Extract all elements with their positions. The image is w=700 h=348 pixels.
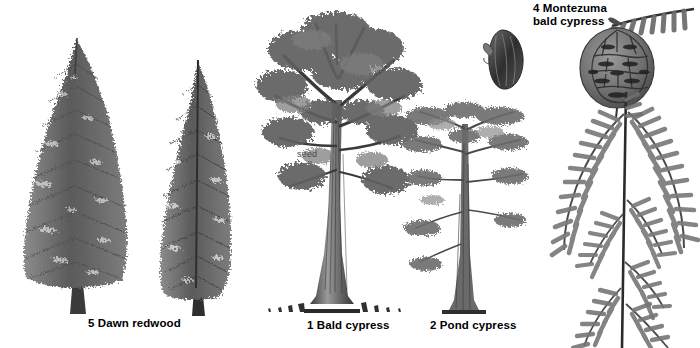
label-montezuma-bald-cypress: 4 Montezuma bald cypress [533, 2, 633, 28]
detail-montezuma-foliage [548, 92, 700, 348]
conifer-tree-icon [24, 38, 127, 314]
specimen-dawn-redwood-broad [14, 34, 149, 320]
label-montezuma-line2: bald cypress [533, 15, 605, 27]
label-montezuma-line1: 4 Montezuma [533, 2, 607, 14]
seed-callout: seed [297, 149, 317, 159]
specimen-dawn-redwood-narrow [148, 58, 252, 320]
pinnate-frond-icon [552, 92, 698, 348]
pond-cypress-tree-icon [402, 102, 528, 314]
label-pond-cypress: 2 Pond cypress [430, 319, 516, 332]
label-dawn-redwood: 5 Dawn redwood [88, 317, 181, 330]
specimen-pond-cypress [398, 104, 530, 320]
label-bald-cypress: 1 Bald cypress [307, 319, 390, 332]
detail-bald-cypress-seed [482, 26, 534, 96]
seed-cone-icon [483, 30, 523, 89]
conifer-tree-icon [160, 60, 231, 316]
